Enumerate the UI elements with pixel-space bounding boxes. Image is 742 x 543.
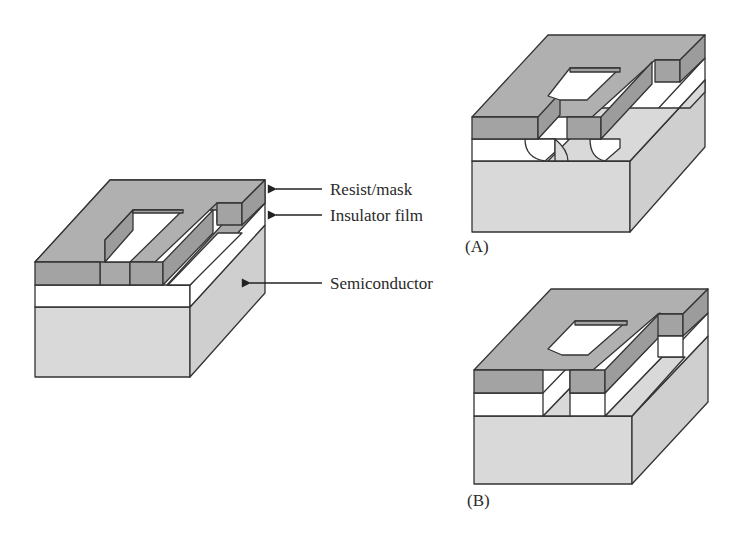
b-resist-front-center xyxy=(570,370,605,393)
resist-back-block xyxy=(217,203,242,225)
panel-b-label: (B) xyxy=(467,491,490,510)
label-insulator: Insulator film xyxy=(330,206,423,225)
a-resist-back-block xyxy=(655,60,680,82)
resist-front-left xyxy=(35,262,100,285)
a-resist-front-center xyxy=(567,117,601,139)
a-opening-back xyxy=(570,68,620,72)
insulator-front xyxy=(35,285,190,307)
panel-b-anisotropic: (B) xyxy=(467,289,708,510)
etching-diagram: Resist/mask Insulator film Semiconductor… xyxy=(0,0,742,543)
a-semiconductor-front xyxy=(472,161,630,232)
initial-structure xyxy=(35,180,265,377)
b-resist-back-block xyxy=(658,314,683,336)
panel-a-label: (A) xyxy=(465,237,489,256)
b-resist-front-left xyxy=(474,370,543,393)
resist-front-center xyxy=(130,262,163,285)
resist-opening-back xyxy=(133,210,183,213)
semiconductor-front xyxy=(35,307,190,377)
b-opening-wall xyxy=(575,321,627,325)
b-semiconductor-front xyxy=(474,416,632,484)
b-insulator-back-block xyxy=(658,336,683,357)
legend-labels: Resist/mask Insulator film Semiconductor xyxy=(250,180,433,293)
panel-a-isotropic: (A) xyxy=(465,35,705,256)
label-semiconductor: Semiconductor xyxy=(330,274,433,293)
label-resist: Resist/mask xyxy=(330,180,413,199)
a-resist-front-left xyxy=(472,117,538,139)
